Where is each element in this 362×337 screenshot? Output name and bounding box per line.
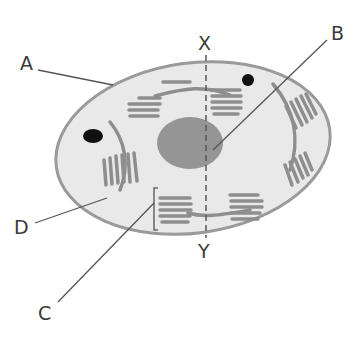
cell-diagram: A B C D X Y	[0, 0, 362, 337]
label-y: Y	[197, 240, 210, 262]
label-c: C	[38, 302, 51, 324]
label-x: X	[198, 32, 211, 54]
nucleus	[157, 117, 223, 169]
label-b: B	[331, 22, 344, 44]
label-a: A	[20, 52, 33, 74]
label-d: D	[14, 216, 29, 238]
dark-body-left	[83, 129, 103, 143]
dark-body-right	[242, 74, 254, 86]
